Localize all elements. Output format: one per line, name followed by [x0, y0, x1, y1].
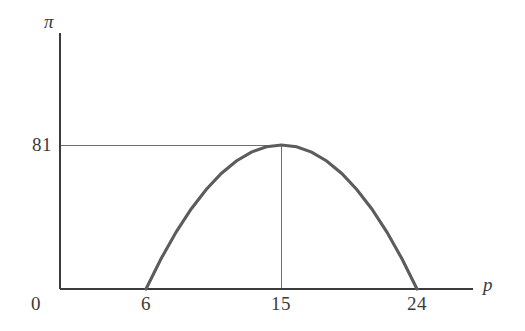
chart-plot-area [0, 0, 525, 331]
y-axis-title: π [44, 12, 54, 31]
x-axis-title: p [483, 275, 493, 294]
x-tick-label-24: 24 [403, 294, 431, 313]
x-tick-label-15: 15 [267, 294, 295, 313]
y-tick-label-81: 81 [20, 135, 52, 154]
x-tick-label-0: 0 [26, 294, 46, 313]
x-tick-label-6: 6 [136, 294, 156, 313]
profit-parabola-figure: π 81 0 6 15 24 p [0, 0, 525, 331]
